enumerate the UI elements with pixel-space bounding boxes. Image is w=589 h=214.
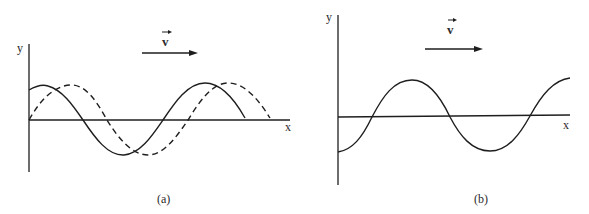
panel-a: y x v (a)	[17, 30, 291, 206]
panel-b-caption: (b)	[474, 192, 488, 206]
panel-a-x-label: x	[285, 120, 291, 134]
svg-text:v: v	[162, 34, 169, 49]
panel-b-arrow-head-icon	[474, 46, 483, 52]
panel-a-y-label: y	[17, 41, 23, 55]
panel-b-y-label: y	[326, 10, 332, 24]
panel-a-solid-wave	[29, 83, 245, 155]
panel-b-velocity-label: v	[447, 18, 457, 37]
vector-arrow-icon	[453, 18, 457, 22]
panel-a-caption: (a)	[157, 192, 170, 206]
figure: y x v (a) y x v	[0, 0, 589, 214]
vector-arrow-icon	[168, 30, 172, 34]
panel-a-arrow-head-icon	[189, 50, 198, 56]
panel-b: y x v (b)	[326, 10, 570, 206]
svg-text:v: v	[447, 22, 454, 37]
panel-a-velocity-label: v	[162, 30, 172, 49]
panel-b-x-label: x	[563, 118, 569, 132]
panel-a-dashed-wave	[29, 83, 270, 155]
